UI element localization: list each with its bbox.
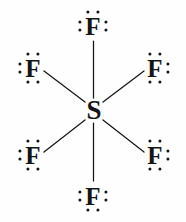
lewis-structure-canvas: SFFFFFF <box>0 0 186 222</box>
bond-s-f-top-right <box>103 71 144 102</box>
bond-s-f-bottom-left <box>44 120 85 152</box>
atom-label-f: F <box>85 14 100 39</box>
atom-label-f: F <box>85 184 100 209</box>
bond-s-f-top-left <box>44 71 85 102</box>
bond-s-f-bottom-right <box>103 120 144 152</box>
atom-label-f: F <box>147 56 162 81</box>
atom-label-s: S <box>86 97 101 124</box>
atom-label-f: F <box>147 143 162 168</box>
atom-label-f: F <box>25 56 40 81</box>
atom-label-f: F <box>25 143 40 168</box>
